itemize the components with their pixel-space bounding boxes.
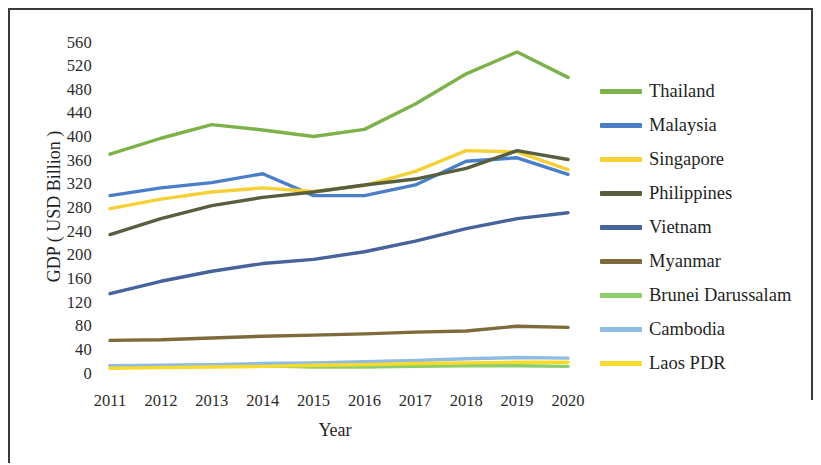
legend-label: Laos PDR	[649, 354, 726, 373]
legend-item-vietnam[interactable]: Vietnam	[600, 210, 815, 244]
legend-label: Singapore	[649, 150, 724, 169]
legend-item-thailand[interactable]: Thailand	[600, 74, 815, 108]
legend-item-malaysia[interactable]: Malaysia	[600, 108, 815, 142]
legend-label: Philippines	[649, 184, 732, 203]
legend-swatch-icon	[600, 361, 642, 366]
legend-label: Thailand	[649, 82, 715, 101]
legend-label: Vietnam	[649, 218, 712, 237]
legend-label: Brunei Darussalam	[649, 286, 791, 305]
legend-swatch-icon	[600, 327, 642, 332]
legend-item-cambodia[interactable]: Cambodia	[600, 312, 815, 346]
legend-item-myanmar[interactable]: Myanmar	[600, 244, 815, 278]
series-line-myanmar	[110, 326, 568, 340]
legend-swatch-icon	[600, 225, 642, 230]
legend-swatch-icon	[600, 259, 642, 264]
chart-legend: ThailandMalaysiaSingaporePhilippinesViet…	[600, 74, 815, 380]
legend-swatch-icon	[600, 89, 642, 94]
legend-swatch-icon	[600, 293, 642, 298]
series-line-vietnam	[110, 213, 568, 294]
legend-item-brunei-darussalam[interactable]: Brunei Darussalam	[600, 278, 815, 312]
legend-swatch-icon	[600, 191, 642, 196]
chart-figure: 0408012016020024028032036040044048052056…	[0, 0, 821, 465]
legend-swatch-icon	[600, 123, 642, 128]
legend-label: Cambodia	[649, 320, 725, 339]
legend-item-singapore[interactable]: Singapore	[600, 142, 815, 176]
legend-item-philippines[interactable]: Philippines	[600, 176, 815, 210]
legend-label: Malaysia	[649, 116, 717, 135]
legend-swatch-icon	[600, 157, 642, 162]
series-line-thailand	[110, 52, 568, 154]
legend-label: Myanmar	[649, 252, 721, 271]
legend-item-laos-pdr[interactable]: Laos PDR	[600, 346, 815, 380]
